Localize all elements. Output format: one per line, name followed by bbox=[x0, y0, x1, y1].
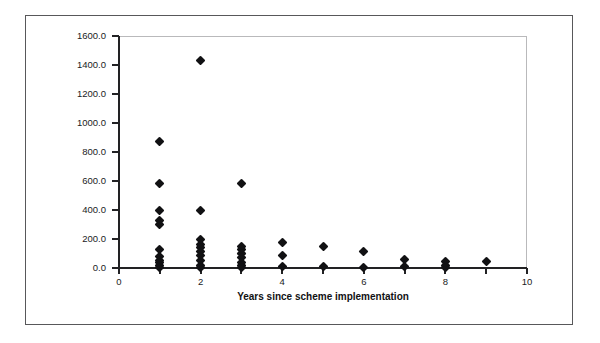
y-tick-200 bbox=[112, 238, 119, 240]
x-tick-label-6: 6 bbox=[344, 276, 384, 287]
x-tick-label-4: 4 bbox=[262, 276, 302, 287]
y-tick-label-1000: 1000.0 bbox=[50, 118, 106, 128]
y-tick-1400 bbox=[112, 64, 119, 66]
y-tick-400 bbox=[112, 209, 119, 211]
y-tick-label-400: 400.0 bbox=[50, 205, 106, 215]
x-tick-9 bbox=[485, 268, 487, 274]
plot-area bbox=[119, 36, 527, 268]
x-tick-0 bbox=[118, 268, 120, 274]
y-tick-label-1600: 1600.0 bbox=[50, 31, 106, 41]
y-tick-label-1400: 1400.0 bbox=[50, 60, 106, 70]
y-tick-1600 bbox=[112, 35, 119, 37]
scatter-chart: 0.0200.0400.0600.0800.01000.01200.01400.… bbox=[0, 0, 600, 343]
y-tick-label-800: 800.0 bbox=[50, 147, 106, 157]
y-tick-label-600: 600.0 bbox=[50, 176, 106, 186]
y-tick-label-200: 200.0 bbox=[50, 234, 106, 244]
x-tick-label-0: 0 bbox=[99, 276, 139, 287]
y-tick-1000 bbox=[112, 122, 119, 124]
y-tick-1200 bbox=[112, 93, 119, 95]
y-tick-label-1200: 1200.0 bbox=[50, 89, 106, 99]
x-tick-label-2: 2 bbox=[181, 276, 221, 287]
x-tick-10 bbox=[526, 268, 528, 274]
x-tick-label-8: 8 bbox=[425, 276, 465, 287]
y-tick-label-0: 0.0 bbox=[50, 263, 106, 273]
y-tick-600 bbox=[112, 180, 119, 182]
y-tick-800 bbox=[112, 151, 119, 153]
x-axis-title: Years since scheme implementation bbox=[119, 291, 527, 302]
x-tick-label-10: 10 bbox=[507, 276, 547, 287]
